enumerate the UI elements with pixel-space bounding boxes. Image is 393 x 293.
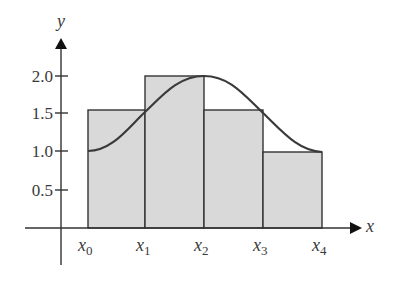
y-axis-label: y (57, 12, 65, 30)
x-tick-label-x0: x0 (78, 236, 93, 257)
x-tick-label-x1: x1 (136, 236, 151, 257)
y-tick-label-1-0: 1.0 (13, 143, 53, 160)
y-tick-label-1-5: 1.5 (13, 105, 53, 122)
y-tick-label-2-0: 2.0 (13, 68, 53, 85)
rect-x2-x3 (204, 110, 263, 228)
y-axis-arrow-icon (55, 38, 67, 49)
x-axis-label: x (366, 217, 374, 235)
rectangles (88, 76, 322, 228)
x-tick-label-x3: x3 (253, 236, 268, 257)
rect-x1-x2 (145, 76, 204, 228)
rect-x3-x4 (263, 152, 322, 228)
x-tick-label-x2: x2 (194, 236, 209, 257)
y-tick-label-0-5: 0.5 (13, 182, 53, 199)
x-tick-label-x4: x4 (312, 236, 327, 257)
x-axis-arrow-icon (350, 222, 362, 234)
rect-x0-x1 (88, 110, 145, 228)
